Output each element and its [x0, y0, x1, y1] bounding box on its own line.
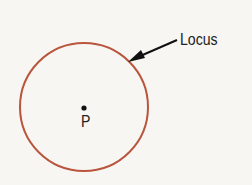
point-p-label: P	[81, 113, 90, 131]
locus-diagram	[0, 0, 252, 185]
center-point	[81, 105, 86, 110]
callout-arrow-head-icon	[128, 50, 145, 62]
locus-label: Locus	[180, 31, 218, 49]
callout-arrow-shaft	[138, 40, 177, 57]
